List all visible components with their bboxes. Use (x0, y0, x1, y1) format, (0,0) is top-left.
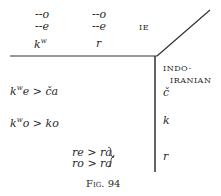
ie-label: IE (139, 23, 149, 33)
ie-col1-e: --e (35, 21, 49, 32)
ie-col1-o: --o (35, 9, 49, 20)
diagonal-divider (157, 10, 210, 56)
ie-col2-e: --e (92, 21, 106, 32)
figure-caption: Fig. 94 (86, 178, 120, 189)
ie-col1-base: kw (34, 38, 47, 50)
ie-col2-o: --o (92, 9, 106, 20)
rule-ro: ro > ra (72, 158, 112, 169)
indo-iranian-label-1: INDO- (163, 64, 192, 74)
ii-outcome-c: č (163, 87, 169, 98)
rule-kwe: kwe > ča (10, 85, 58, 97)
ii-outcome-k: k (163, 115, 170, 126)
ie-col2-base: r (96, 38, 101, 49)
ii-outcome-r: r (163, 151, 168, 162)
indo-iranian-label-2: IRANIAN (170, 76, 211, 86)
rule-kwo: kwo > ko (10, 117, 59, 129)
